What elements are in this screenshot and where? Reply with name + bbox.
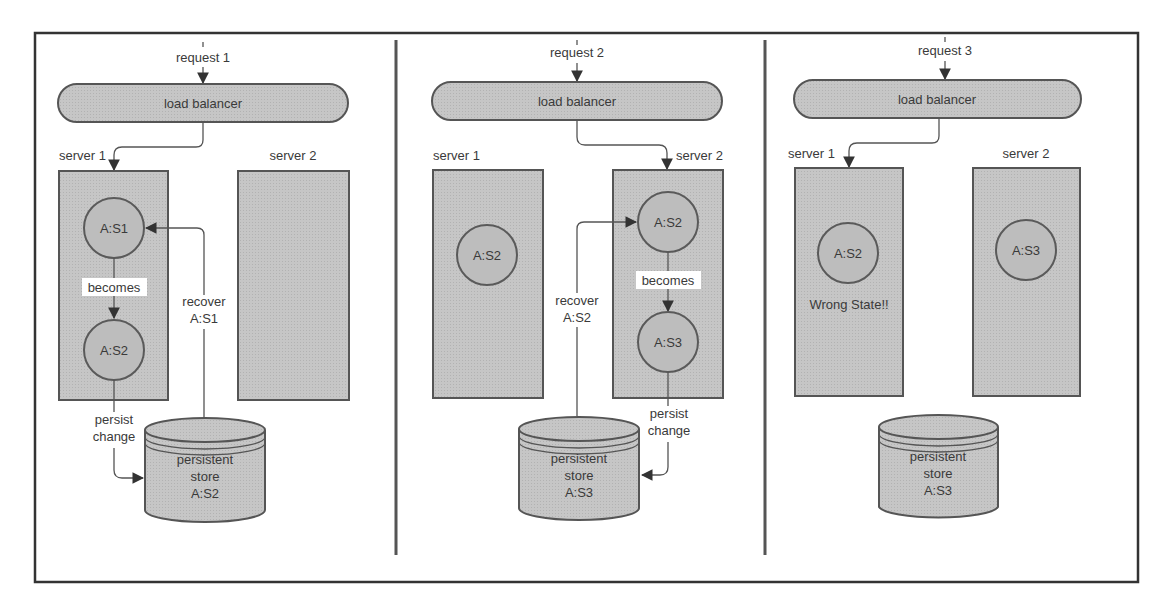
panel2-state-2-label: A:S3	[654, 335, 682, 350]
panel2-recover-label-2: A:S2	[563, 310, 591, 325]
request-2-label: request 2	[550, 45, 604, 60]
panel-1: request 1 load balancer server 1 server …	[58, 42, 349, 522]
load-balancer-3-label: load balancer	[898, 92, 977, 107]
lb2-to-server2-arrow	[577, 120, 667, 169]
wrong-state-warning: Wrong State!!	[809, 297, 888, 312]
panel3-server1-label: server 1	[788, 146, 835, 161]
panel2-recover-label-1: recover	[555, 293, 599, 308]
panel3-server2-label: server 2	[1003, 146, 1050, 161]
load-balancer-2-label: load balancer	[538, 94, 617, 109]
lb3-to-server1-arrow	[849, 118, 939, 167]
request-3-label: request 3	[918, 43, 972, 58]
panel1-store-label-1: persistent	[177, 452, 234, 467]
panel3-server2-state-label: A:S3	[1012, 243, 1040, 258]
lb1-to-server1-arrow	[114, 122, 203, 170]
panel1-recover-label-1: recover	[182, 294, 226, 309]
panel1-state-2-label: A:S2	[100, 343, 128, 358]
panel1-recover-label-2: A:S1	[190, 311, 218, 326]
panel3-server1-state-label: A:S2	[834, 246, 862, 261]
panel1-store-label-2: store	[191, 469, 220, 484]
panel2-store-label-1: persistent	[551, 451, 608, 466]
panel2-persist-label-2: change	[648, 423, 691, 438]
panel2-persist-label-1: persist	[650, 406, 689, 421]
load-balancer-1-label: load balancer	[164, 96, 243, 111]
panel2-store-label-3: A:S3	[565, 485, 593, 500]
panel-2: request 2 load balancer server 1 server …	[432, 40, 723, 520]
panel1-persist-label-2: change	[93, 429, 136, 444]
stateful-server-diagram: request 1 load balancer server 1 server …	[0, 0, 1168, 606]
request-1-label: request 1	[176, 50, 230, 65]
panel1-server1-label: server 1	[59, 148, 106, 163]
panel3-server2-box	[973, 168, 1080, 396]
panel3-store-label-2: store	[924, 466, 953, 481]
panel2-server1-state-label: A:S2	[473, 248, 501, 263]
panel2-state-1-label: A:S2	[654, 215, 682, 230]
panel2-server2-label: server 2	[676, 148, 723, 163]
panel-3: request 3 load balancer server 1 server …	[788, 37, 1081, 517]
panel1-store-label-3: A:S2	[191, 486, 219, 501]
panel3-store-label-1: persistent	[910, 449, 967, 464]
panel1-server2-box	[238, 171, 349, 400]
panel2-server1-label: server 1	[433, 148, 480, 163]
panel1-server2-label: server 2	[270, 148, 317, 163]
panel1-state-1-label: A:S1	[100, 221, 128, 236]
panel1-persist-label-1: persist	[95, 412, 134, 427]
panel2-store-label-2: store	[565, 468, 594, 483]
panel2-becomes-label: becomes	[642, 273, 695, 288]
panel1-becomes-label: becomes	[88, 280, 141, 295]
panel3-store-label-3: A:S3	[924, 483, 952, 498]
